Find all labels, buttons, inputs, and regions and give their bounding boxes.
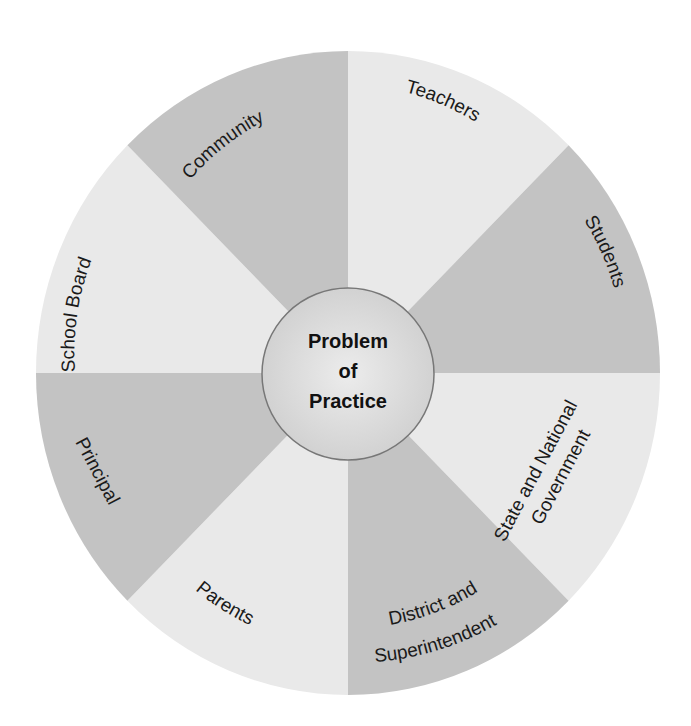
center-label-line3: Practice: [309, 390, 387, 412]
center-label-line2: of: [339, 360, 358, 382]
stakeholder-wheel: Community Teachers Students School Board…: [0, 0, 691, 726]
center-label-line1: Problem: [308, 330, 388, 352]
